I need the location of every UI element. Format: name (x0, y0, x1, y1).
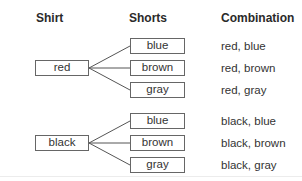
shorts-node-black-blue: blue (130, 113, 185, 129)
combination-black-blue: black, blue (221, 114, 276, 128)
shirt-node-black: black (35, 135, 89, 151)
shirt-node-red: red (35, 60, 89, 76)
combination-black-gray: black, gray (221, 158, 277, 172)
combination-black-brown: black, brown (221, 136, 286, 150)
shorts-node-black-gray: gray (130, 157, 185, 173)
combination-red-gray: red, gray (221, 83, 266, 97)
combination-red-brown: red, brown (221, 61, 275, 75)
shorts-node-black-brown: brown (130, 135, 185, 151)
shorts-node-red-brown: brown (130, 60, 185, 76)
bottom-divider (0, 176, 302, 177)
shorts-node-red-blue: blue (130, 38, 185, 54)
shorts-node-red-gray: gray (130, 82, 185, 98)
combination-red-blue: red, blue (221, 39, 266, 53)
